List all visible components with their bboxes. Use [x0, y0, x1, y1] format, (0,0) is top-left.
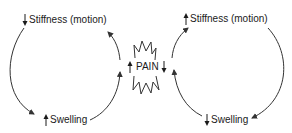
- left-stiffness-node: Stiffness (motion): [22, 14, 107, 26]
- left-arc-stiffness-to-swelling: [10, 28, 34, 114]
- arrow-down-icon: [22, 14, 28, 26]
- arrow-down-icon: [204, 114, 210, 126]
- left-swelling-node: Swelling: [43, 114, 87, 126]
- right-arc-stiffness-to-swelling: [252, 28, 284, 118]
- right-swelling-label: Swelling: [211, 114, 248, 126]
- left-arc-pain-to-stiffness: [108, 32, 120, 60]
- left-arc-swelling-to-pain: [90, 72, 120, 120]
- arrow-up-icon: [43, 114, 49, 126]
- right-stiffness-label: Stiffness (motion): [190, 13, 268, 25]
- right-arc-pain-to-stiffness: [172, 28, 188, 58]
- arrow-up-icon: [127, 61, 133, 73]
- left-swelling-label: Swelling: [50, 114, 87, 126]
- pain-label: PAIN: [136, 61, 159, 73]
- right-stiffness-node: Stiffness (motion): [183, 13, 268, 25]
- pain-cycle-diagram: Stiffness (motion) Swelling Stiffness (m…: [0, 0, 292, 133]
- left-stiffness-label: Stiffness (motion): [29, 14, 107, 26]
- arrow-down-icon: [161, 61, 167, 73]
- right-arc-swelling-to-pain: [174, 70, 202, 116]
- arrow-up-icon: [183, 13, 189, 25]
- right-swelling-node: Swelling: [204, 114, 248, 126]
- pain-node: PAIN: [127, 61, 168, 73]
